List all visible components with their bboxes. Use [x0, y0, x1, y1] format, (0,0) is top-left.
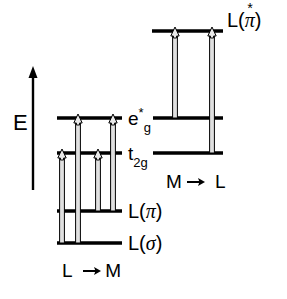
arrow-eg-star-to-l-pi-star [171, 27, 179, 118]
arrow-t2g-to-l-pi-star [208, 27, 216, 153]
label-l-pi-star-close: ) [255, 9, 262, 31]
right-transition-from: M [166, 171, 183, 192]
energy-level-diagram: L(π*) e*g t2g L(π) L(σ) E L M M L [0, 0, 287, 299]
left-transition-to: M [105, 260, 122, 281]
label-eg-star-sub: g [144, 120, 151, 135]
label-l-sigma-close: ) [156, 232, 163, 254]
star-icon: * [139, 105, 144, 120]
right-transition-to: L [215, 171, 227, 192]
arrow-sigma-to-eg-star [74, 114, 82, 243]
label-l-pi-star: L(π*) [227, 10, 262, 30]
label-l-pi: L(π) [128, 201, 163, 221]
pi-glyph: π [146, 200, 156, 222]
star-icon: * [247, 1, 252, 15]
label-l-pi-close: ) [156, 200, 163, 222]
label-l-pi-star-open: L( [227, 9, 245, 31]
label-eg-star: e*g [128, 107, 151, 132]
label-l-pi-open: L( [128, 200, 146, 222]
label-l-sigma-open: L( [128, 232, 146, 254]
label-l-sigma: L(σ) [128, 233, 162, 253]
arrow-sigma-to-t2g [58, 149, 66, 243]
left-transition-from: L [62, 260, 73, 281]
arrow-pi-to-t2g [94, 149, 102, 211]
energy-axis-label: E [13, 112, 28, 134]
arrow-pi-to-eg-star [109, 114, 117, 211]
left-transition-label: L M [62, 261, 122, 280]
energy-axis [29, 66, 38, 190]
pi-star-glyph: π* [245, 10, 255, 30]
right-transition-label: M L [166, 172, 227, 191]
label-t2g-sub: 2g [133, 155, 147, 170]
label-eg-star-main: e [128, 108, 139, 129]
label-t2g: t2g [128, 144, 148, 167]
sigma-glyph: σ [146, 232, 156, 254]
